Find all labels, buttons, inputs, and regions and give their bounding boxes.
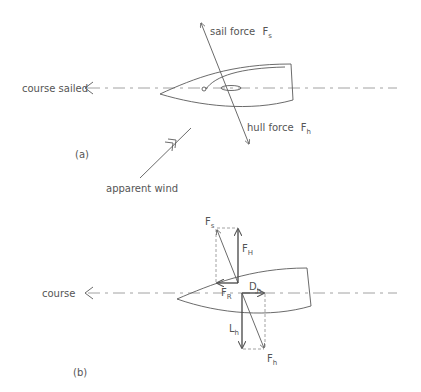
hull-outline-b — [177, 268, 311, 313]
sail-arc-a — [206, 67, 285, 89]
figure-a: course sailed sail force Fs hull force F… — [22, 23, 397, 194]
course-label: course — [42, 288, 75, 299]
panel-label-a: (a) — [75, 149, 89, 160]
sailing-force-diagram: course sailed sail force Fs hull force F… — [0, 0, 421, 392]
sail-force-label: sail force Fs — [210, 26, 272, 40]
label-FR: FR — [221, 287, 232, 301]
wind-chevron-icon — [165, 139, 176, 151]
panel-label-b: (b) — [73, 367, 87, 378]
apparent-wind-label: apparent wind — [106, 183, 178, 194]
label-Fs: Fs — [205, 216, 215, 230]
hull-force-resolution — [242, 293, 265, 349]
course-line-b — [85, 287, 397, 299]
hull-force-vector — [242, 293, 264, 348]
hull-force-label: hull force Fh — [247, 122, 311, 136]
sail-force-vector — [217, 230, 238, 283]
label-Fh: Fh — [267, 353, 277, 367]
apparent-wind-line — [140, 128, 191, 178]
mast-icon — [202, 87, 206, 91]
label-FH: FH — [242, 243, 253, 257]
force-vector-a — [201, 23, 249, 144]
course-sailed-label: course sailed — [22, 83, 88, 94]
sail-force-resolution — [216, 228, 238, 283]
label-Lh: Lh — [229, 323, 239, 337]
figure-b: course Fs FH FR Dh Lh Fh (b) — [42, 216, 397, 378]
